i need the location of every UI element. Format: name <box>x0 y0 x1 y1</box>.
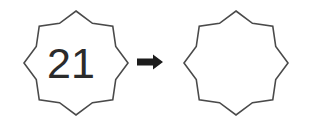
star-transformation-figure: 21 <box>0 0 310 125</box>
left-star-label: 21 <box>47 39 95 87</box>
right-star-outline <box>184 11 288 115</box>
right-star-group <box>184 11 288 115</box>
left-star-group: 21 <box>24 11 128 115</box>
figure-canvas: 21 <box>0 0 310 125</box>
